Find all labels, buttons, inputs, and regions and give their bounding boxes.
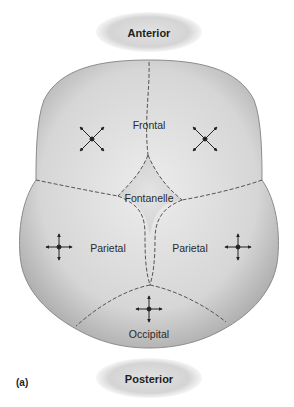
figure-label: (a) xyxy=(16,377,28,388)
posterior-label-group: Posterior xyxy=(96,358,202,398)
frontal-label: Frontal xyxy=(133,119,166,131)
anterior-label-group: Anterior xyxy=(96,12,202,52)
anterior-label: Anterior xyxy=(128,27,172,39)
parietal-right-label: Parietal xyxy=(172,242,208,254)
infant-skull-diagram: Anterior xyxy=(0,0,294,407)
parietal-left-label: Parietal xyxy=(90,242,126,254)
posterior-label: Posterior xyxy=(125,373,174,385)
fontanelle-label: Fontanelle xyxy=(124,192,173,204)
occipital-label: Occipital xyxy=(129,328,169,340)
